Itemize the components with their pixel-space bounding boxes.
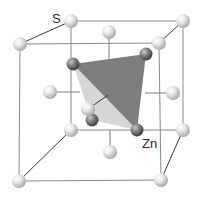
- edge-front-bottom: [19, 180, 161, 181]
- zn-tetrahedron: [73, 54, 146, 130]
- s-atom: [176, 123, 190, 137]
- s-atom: [13, 37, 27, 51]
- s-atom: [64, 14, 78, 28]
- edge-front-left: [19, 44, 20, 181]
- edge-top-left-depth: [20, 21, 71, 44]
- s-atom: [152, 36, 166, 50]
- s-atom: [166, 86, 180, 100]
- edge-bottom-left-depth: [19, 130, 71, 181]
- s-atom: [154, 173, 168, 187]
- s-atom-front-face: [81, 102, 95, 116]
- s-atom: [103, 145, 117, 159]
- s-atom: [12, 174, 26, 188]
- s-atom: [102, 25, 116, 39]
- edge-front-right: [159, 43, 161, 180]
- zn-atom: [131, 124, 144, 137]
- edge-front-top: [20, 43, 159, 44]
- edge-bottom-right-depth: [161, 130, 183, 180]
- sulfur-label: S: [52, 11, 61, 26]
- zn-atom: [140, 48, 153, 61]
- s-atom: [43, 85, 57, 99]
- s-atom: [64, 123, 78, 137]
- zinc-blende-diagram: S Zn: [0, 0, 205, 198]
- zinc-label: Zn: [142, 136, 157, 151]
- crystal-structure-canvas: S Zn: [0, 0, 205, 198]
- s-atom: [176, 14, 190, 28]
- zn-atom: [67, 58, 80, 71]
